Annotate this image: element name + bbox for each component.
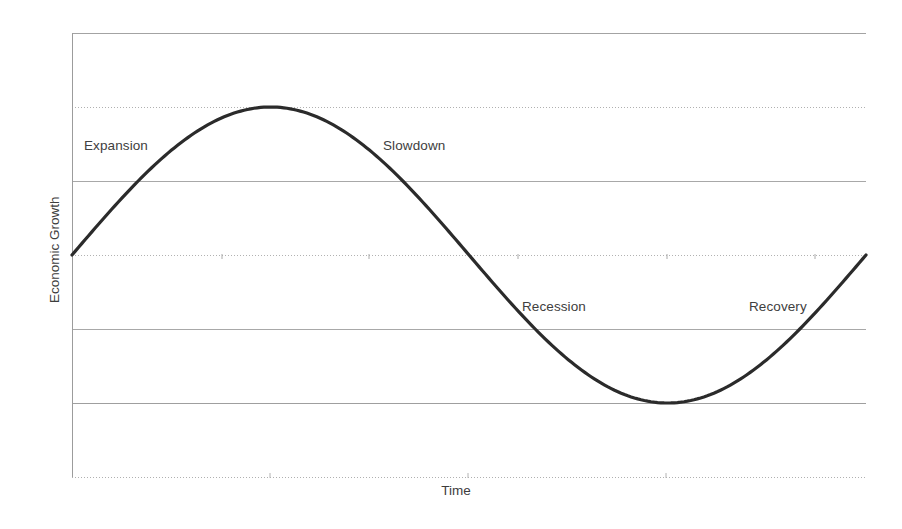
- x-axis-label: Time: [396, 484, 516, 498]
- y-axis-label-wrapper: Economic Growth: [0, 175, 60, 345]
- y-axis-label: Economic Growth: [48, 165, 62, 335]
- annotation-expansion: Expansion: [84, 139, 148, 153]
- x-axis-ticks: [222, 254, 815, 259]
- chart-plot-area: [0, 0, 902, 529]
- business-cycle-chart: Expansion Slowdown Recession Recovery Ec…: [0, 0, 902, 529]
- annotation-slowdown: Slowdown: [383, 139, 445, 153]
- annotation-recovery: Recovery: [749, 300, 807, 314]
- annotation-recession: Recession: [522, 300, 586, 314]
- business-cycle-curve: [72, 107, 866, 403]
